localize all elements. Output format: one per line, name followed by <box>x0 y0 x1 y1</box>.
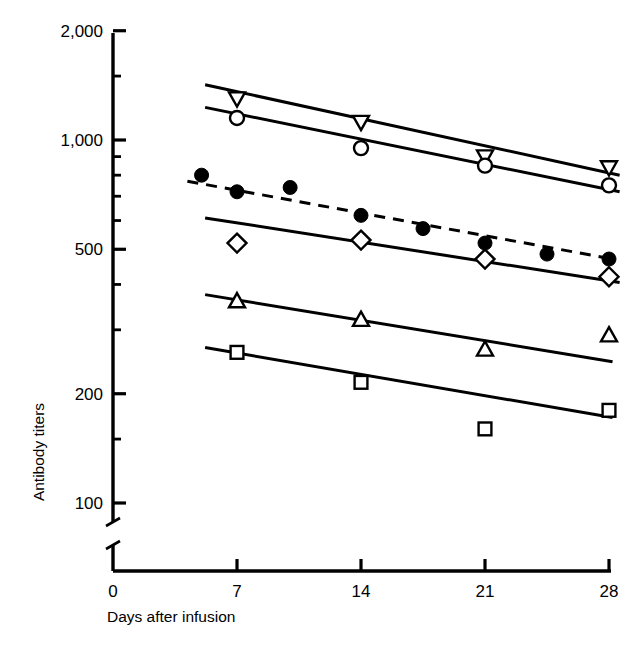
chart-figure: 1002005001,0002,00007142128Antibody tite… <box>0 0 633 649</box>
y-tick-label: 200 <box>75 385 103 404</box>
fit-line-series-open-square <box>205 348 612 418</box>
marker-up-triangle <box>601 327 617 341</box>
marker-open-square <box>603 404 616 417</box>
marker-open-circle <box>478 159 492 173</box>
data-markers-layer <box>195 92 619 435</box>
fit-line-series-up-triangle <box>205 295 612 362</box>
fit-line-series-open-circle <box>205 107 620 191</box>
x-tick-label: 21 <box>476 582 495 601</box>
marker-open-diamond <box>228 234 247 253</box>
marker-open-diamond <box>600 267 619 286</box>
marker-filled-circle <box>195 168 209 182</box>
marker-filled-circle <box>540 247 554 261</box>
marker-filled-circle <box>230 185 244 199</box>
y-tick-label: 2,000 <box>60 22 103 41</box>
y-axis-title: Antibody titers <box>30 403 47 501</box>
x-tick-label: 14 <box>352 582 371 601</box>
marker-open-circle <box>354 141 368 155</box>
fit-lines-layer <box>187 85 619 418</box>
x-tick-label: 7 <box>232 582 241 601</box>
y-tick-label: 1,000 <box>60 131 103 150</box>
marker-up-triangle <box>477 341 493 355</box>
marker-down-triangle <box>229 92 245 106</box>
marker-filled-circle <box>283 180 297 194</box>
fit-line-series-down-triangle <box>205 85 620 175</box>
marker-down-triangle <box>353 116 369 130</box>
marker-open-circle <box>602 178 616 192</box>
marker-open-square <box>479 423 492 436</box>
marker-open-circle <box>230 111 244 125</box>
marker-open-square <box>355 376 368 389</box>
marker-filled-circle <box>354 208 368 222</box>
marker-open-square <box>231 346 244 359</box>
marker-open-diamond <box>352 231 371 250</box>
marker-filled-circle <box>416 222 430 236</box>
x-tick-label: 0 <box>108 582 117 601</box>
marker-open-diamond <box>476 250 495 269</box>
y-tick-label: 100 <box>75 494 103 513</box>
fit-line-series-open-diamond <box>205 218 620 283</box>
x-tick-label: 28 <box>600 582 619 601</box>
y-tick-label: 500 <box>75 240 103 259</box>
antibody-titers-chart: 1002005001,0002,00007142128Antibody tite… <box>0 0 633 649</box>
marker-filled-circle <box>602 252 616 266</box>
x-axis-title: Days after infusion <box>107 608 235 625</box>
axis-layer <box>106 31 611 571</box>
